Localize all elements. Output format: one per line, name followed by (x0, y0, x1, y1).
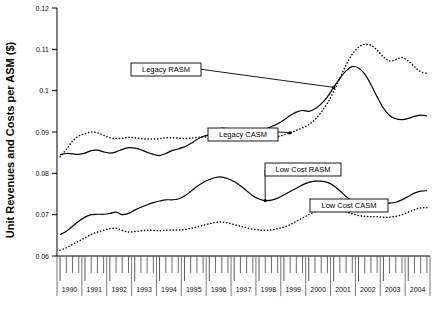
x-tick-label: 1991 (87, 286, 103, 293)
y-tick-label: 0.11 (36, 46, 49, 53)
x-tick-label: 2004 (410, 286, 426, 293)
x-tick-label: 2000 (310, 286, 326, 293)
annotation-label: Legacy CASM (219, 130, 267, 139)
annotation-label: Low Cost CASM (321, 201, 376, 210)
y-tick-label: 0.07 (35, 211, 49, 218)
x-tick-label: 1990 (62, 286, 78, 293)
x-tick-label: 1999 (285, 286, 301, 293)
y-tick-label: 0.09 (35, 129, 49, 136)
annotation-arrow-head (332, 86, 335, 89)
chart-background (0, 0, 433, 311)
x-tick-label: 1994 (161, 286, 177, 293)
x-tick-label: 2001 (335, 286, 351, 293)
x-tick-label: 1995 (186, 286, 202, 293)
x-tick-label: 2003 (385, 286, 401, 293)
x-tick-label: 1996 (211, 286, 227, 293)
annotation-label: Low Cost RASM (275, 165, 330, 174)
line-chart: Unit Revenues and Costs per ASM ($) 0.06… (0, 0, 433, 311)
annotation-arrow-head (264, 199, 267, 202)
chart-container: Unit Revenues and Costs per ASM ($) 0.06… (0, 0, 433, 311)
y-tick-label: 0.08 (35, 170, 49, 177)
annotation-arrow-head (289, 131, 292, 134)
y-axis-title: Unit Revenues and Costs per ASM ($) (4, 41, 16, 238)
y-tick-label: 0.12 (35, 5, 49, 12)
y-tick-label: 0.06 (35, 253, 49, 260)
x-tick-label: 1998 (261, 286, 277, 293)
x-tick-label: 2002 (360, 286, 376, 293)
x-tick-label: 1993 (136, 286, 152, 293)
x-tick-label: 1992 (111, 286, 127, 293)
y-tick-label: 0.1 (39, 87, 49, 94)
x-tick-label: 1997 (236, 286, 252, 293)
annotation-label: Legacy RASM (142, 65, 190, 74)
